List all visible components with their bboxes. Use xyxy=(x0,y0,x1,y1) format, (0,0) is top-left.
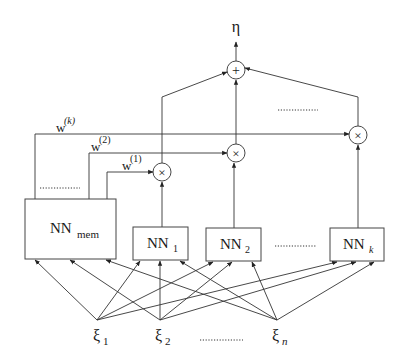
weight-label-2: w (2) xyxy=(91,134,111,154)
weight-label-k: w (k) xyxy=(56,115,76,135)
nn-2-box: NN 2 xyxy=(206,228,261,261)
input-label-xin: ξ n xyxy=(272,327,288,347)
multiply-icon: × xyxy=(158,165,165,180)
nn-1-box: NN 1 xyxy=(133,227,188,260)
plus-icon: + xyxy=(232,63,240,78)
svg-text:2: 2 xyxy=(245,244,250,255)
link-x1-to-sum xyxy=(162,72,227,163)
svg-text:mem: mem xyxy=(77,228,99,240)
svg-text:NN: NN xyxy=(50,220,72,236)
ensemble-diagram: η + × × × w (k) w (2) w (1) xyxy=(0,0,405,364)
input-links-xi2 xyxy=(70,260,356,320)
svg-text:NN: NN xyxy=(147,235,169,251)
svg-text:(1): (1) xyxy=(130,153,142,165)
nn-mem-box: NN mem xyxy=(25,199,116,259)
product-node-2: × xyxy=(227,144,245,162)
svg-text:ξ: ξ xyxy=(272,327,279,344)
product-node-k: × xyxy=(349,126,367,144)
nn-k-box: NN k xyxy=(330,228,384,261)
svg-text:n: n xyxy=(282,335,288,347)
svg-text:(2): (2) xyxy=(99,134,111,146)
svg-text:NN: NN xyxy=(220,236,242,252)
svg-text:ξ: ξ xyxy=(155,327,162,344)
svg-text:2: 2 xyxy=(165,335,171,347)
input-label-xi1: ξ 1 xyxy=(93,327,109,347)
sum-node: + xyxy=(227,61,245,79)
weight-label-1: w (1) xyxy=(122,153,142,173)
svg-text:(k): (k) xyxy=(64,115,76,127)
product-node-1: × xyxy=(153,163,171,181)
weight-line-k xyxy=(35,134,349,199)
svg-text:NN: NN xyxy=(343,236,365,252)
link-xk-to-sum xyxy=(245,68,358,126)
multiply-icon: × xyxy=(354,128,361,143)
weight-line-1 xyxy=(107,172,153,199)
input-label-xi2: ξ 2 xyxy=(155,327,171,347)
svg-text:1: 1 xyxy=(103,335,109,347)
multiply-icon: × xyxy=(232,146,239,161)
svg-text:ξ: ξ xyxy=(93,327,100,344)
svg-text:1: 1 xyxy=(173,243,178,254)
svg-text:k: k xyxy=(369,244,374,255)
output-label-eta: η xyxy=(232,18,240,36)
